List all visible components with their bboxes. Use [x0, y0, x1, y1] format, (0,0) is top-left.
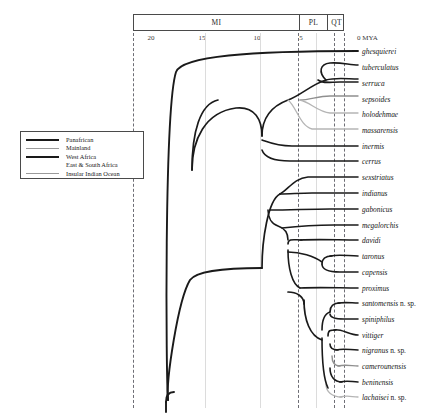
branch-indianus	[280, 193, 358, 194]
taxon-label: vittiger	[362, 331, 383, 340]
branch-cerrus	[262, 150, 358, 161]
legend-swatch-east-south-africa	[26, 165, 59, 166]
branch-lower-backbone	[168, 268, 262, 400]
taxon-label: sexstriatus	[362, 173, 394, 182]
taxon-name: holodehmae	[362, 110, 398, 119]
taxon-name: spiniphilus	[362, 315, 394, 324]
phylogenetic-tree-figure: MI PL QT 20 15 10 5 0 MYA	[0, 0, 444, 417]
taxon-label: taronus	[362, 252, 384, 261]
branch-megalorchis	[282, 225, 358, 228]
taxon-name: santomensis	[362, 299, 398, 308]
taxon-name: tuberculatus	[362, 63, 399, 72]
taxon-nsp-suffix: n. sp.	[388, 346, 406, 355]
taxon-name: lachaisei	[362, 393, 389, 402]
legend-item-west-africa: West Africa	[26, 153, 138, 161]
branch-node-a	[262, 78, 358, 136]
branch-taronus-node	[322, 256, 332, 264]
taxon-label: lachaisei n. sp.	[362, 393, 406, 402]
taxon-label: proximus	[362, 284, 389, 293]
branch-camerounensis	[338, 365, 358, 366]
branch-inermis	[262, 140, 358, 146]
taxon-name: ghesquierei	[362, 47, 396, 56]
taxon-nsp-suffix: n. sp.	[398, 299, 416, 308]
taxon-name: inermis	[362, 142, 384, 151]
branch-sexstriatus	[280, 177, 358, 194]
taxon-label: gabonicus	[362, 205, 392, 214]
taxon-label: cerrus	[362, 157, 381, 166]
legend-item-panafrican: Panafrican	[26, 136, 138, 144]
branch-nigranus	[336, 349, 358, 350]
branch-terminal-stem	[288, 292, 304, 304]
taxon-name: capensis	[362, 268, 387, 277]
taxon-label: davidi	[362, 236, 380, 245]
branch-massarensis	[288, 100, 358, 129]
branch-midclade-stem	[262, 194, 280, 268]
branch-camerounensis-node	[332, 356, 340, 366]
branch-upperclade-stem	[192, 100, 218, 170]
legend-swatch-panafrican	[26, 139, 59, 141]
branch-midclade-sub	[268, 210, 288, 240]
taxon-name: beninensis	[362, 378, 393, 387]
branch-upperclade-backbone	[192, 108, 262, 170]
branch-vittiger	[334, 330, 358, 335]
legend-label-west-africa: West Africa	[66, 153, 96, 161]
taxon-name: sexstriatus	[362, 173, 394, 182]
branch-taronus-stem	[288, 252, 322, 262]
legend-box: Panafrican Mainland West Africa East & S…	[20, 131, 144, 179]
branch-proximus-stem	[288, 250, 300, 288]
taxon-label: nigranus n. sp.	[362, 346, 406, 355]
taxon-label: ghesquierei	[362, 47, 396, 56]
taxon-name: cerrus	[362, 157, 381, 166]
branch-lachaisei	[340, 396, 358, 397]
taxon-name: massarensis	[362, 126, 398, 135]
legend-swatch-mainland	[26, 148, 59, 149]
taxon-label: holodehmae	[362, 110, 398, 119]
branch-terminal-backbone	[304, 300, 322, 340]
branch-beninensis-node	[330, 368, 342, 382]
taxon-name: nigranus	[362, 346, 388, 355]
branch-terminal-lower-stem	[322, 338, 328, 388]
branch-spin-stem	[322, 312, 330, 330]
taxon-label: indianus	[362, 189, 387, 198]
taxon-name: megalorchis	[362, 221, 398, 230]
branch-holodehmae	[300, 100, 358, 113]
branch-lachaisei-node	[326, 384, 342, 397]
branch-spiniphilus	[330, 314, 358, 319]
taxon-label: capensis	[362, 268, 387, 277]
taxon-name: serruca	[362, 79, 385, 88]
taxon-label: santomensis n. sp.	[362, 299, 416, 308]
legend-label-panafrican: Panafrican	[66, 136, 93, 144]
legend-swatch-west-africa	[26, 156, 59, 158]
legend-label-insular-indian-ocean: Insular Indian Ocean	[66, 170, 120, 178]
taxon-label: megalorchis	[362, 221, 398, 230]
taxon-name: proximus	[362, 284, 389, 293]
taxon-label: beninensis	[362, 378, 393, 387]
legend-item-east-south-africa: East & South Africa	[26, 161, 138, 169]
taxon-label: sepsoides	[362, 95, 390, 104]
taxon-name: davidi	[362, 236, 380, 245]
legend-swatch-insular-indian-ocean	[26, 173, 59, 174]
taxon-nsp-suffix: n. sp.	[389, 393, 407, 402]
legend-label-east-south-africa: East & South Africa	[66, 161, 118, 169]
taxon-name: gabonicus	[362, 205, 392, 214]
taxon-label: spiniphilus	[362, 315, 394, 324]
branch-davidi-node	[288, 240, 302, 244]
taxon-name: sepsoides	[362, 95, 390, 104]
legend-item-mainland: Mainland	[26, 144, 138, 152]
branch-sepsoides	[300, 96, 358, 100]
taxon-name: camerounensis	[362, 362, 406, 371]
taxon-name: indianus	[362, 189, 387, 198]
branch-taronus	[330, 255, 358, 256]
taxon-label: inermis	[362, 142, 384, 151]
taxon-label: serruca	[362, 79, 385, 88]
branch-capensis	[322, 264, 358, 272]
branch-santomensis-node	[330, 303, 340, 312]
taxon-label: tuberculatus	[362, 63, 399, 72]
legend-item-insular-indian-ocean: Insular Indian Ocean	[26, 170, 138, 178]
taxon-label: massarensis	[362, 126, 398, 135]
branch-gabonicus	[270, 209, 358, 210]
branch-vittiger-node	[328, 330, 336, 336]
legend-label-mainland: Mainland	[66, 144, 91, 152]
taxon-label: camerounensis	[362, 362, 406, 371]
branch-tuberculatus	[321, 63, 358, 80]
